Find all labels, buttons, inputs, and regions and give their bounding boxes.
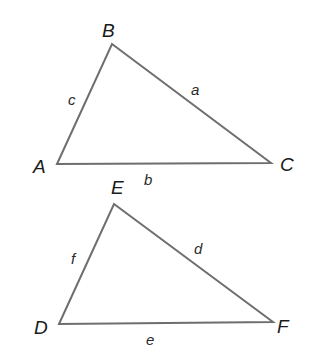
vertex-label-c: C [280, 154, 294, 175]
side-label-a: a [191, 81, 199, 98]
triangle-def: E D F f d e [34, 177, 290, 348]
vertex-label-b: B [102, 20, 115, 41]
triangle-abc: B A C c a b [32, 20, 294, 188]
vertex-label-f: F [277, 316, 290, 337]
vertex-label-d: D [34, 317, 48, 338]
side-label-c: c [68, 91, 76, 108]
side-label-d: d [194, 240, 203, 257]
triangle-def-outline [59, 204, 273, 324]
triangles-diagram: B A C c a b E D F f d e [0, 0, 326, 363]
triangle-abc-outline [57, 44, 271, 164]
vertex-label-e: E [111, 177, 124, 198]
vertex-label-a: A [32, 156, 46, 177]
side-label-f: f [71, 250, 77, 267]
side-label-b: b [144, 171, 152, 188]
side-label-e: e [146, 331, 154, 348]
